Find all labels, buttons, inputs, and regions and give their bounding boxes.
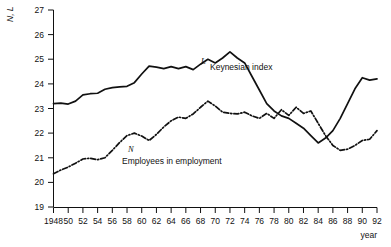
y-tick-label: 19	[35, 202, 45, 212]
x-tick-labels: 1948505254565860626466687072747678808284…	[44, 216, 382, 226]
x-tick-label: 92	[372, 216, 382, 226]
x-tick-label: 66	[181, 216, 191, 226]
x-tick-label: 90	[358, 216, 368, 226]
y-tick-label: 24	[35, 79, 45, 89]
series-symbol-n: N	[127, 144, 135, 154]
y-tick-label: 27	[35, 5, 45, 15]
x-axis-title: year	[360, 230, 377, 240]
x-axis: 1948505254565860626466687072747678808284…	[44, 208, 382, 241]
series-label-keynesian-index: Keynesian index	[210, 62, 273, 72]
x-tick-label: 64	[166, 216, 176, 226]
y-tick-label: 25	[35, 54, 45, 64]
y-tick-label: 23	[35, 104, 45, 114]
x-tick-label: 72	[225, 216, 235, 226]
x-tick-label: 82	[299, 216, 309, 226]
y-tick-label: 20	[35, 177, 45, 187]
annotation-employees-in-employment: N Employees in employment	[122, 144, 222, 166]
x-tick-label: 62	[152, 216, 162, 226]
chart-container: 19 20 21 22 23 24 25 26 27 N, L 19485052…	[0, 0, 391, 247]
y-tick-labels: 19 20 21 22 23 24 25 26 27	[35, 5, 45, 212]
x-axis-ticks	[54, 208, 378, 214]
x-tick-label: 68	[196, 216, 206, 226]
line-chart: 19 20 21 22 23 24 25 26 27 N, L 19485052…	[0, 0, 391, 247]
x-tick-label: 70	[211, 216, 221, 226]
x-tick-label: 84	[313, 216, 323, 226]
x-tick-label: 1948	[44, 216, 63, 226]
y-axis-ticks	[48, 10, 54, 207]
x-tick-label: 86	[328, 216, 338, 226]
y-tick-label: 22	[35, 128, 45, 138]
y-tick-label: 21	[35, 153, 45, 163]
x-tick-label: 60	[137, 216, 147, 226]
y-axis: 19 20 21 22 23 24 25 26 27 N, L	[5, 5, 54, 212]
y-tick-label: 26	[35, 30, 45, 40]
series-symbol-l: L	[200, 56, 206, 66]
x-tick-label: 76	[255, 216, 265, 226]
x-tick-label: 56	[108, 216, 118, 226]
series-label-employees-in-employment: Employees in employment	[122, 156, 222, 166]
x-tick-label: 52	[78, 216, 88, 226]
x-tick-label: 58	[122, 216, 132, 226]
x-tick-label: 88	[343, 216, 353, 226]
x-tick-label: 50	[63, 216, 73, 226]
x-tick-label: 80	[284, 216, 294, 226]
x-tick-label: 54	[93, 216, 103, 226]
x-tick-label: 78	[269, 216, 279, 226]
x-tick-label: 74	[240, 216, 250, 226]
y-axis-title: N, L	[5, 6, 15, 22]
